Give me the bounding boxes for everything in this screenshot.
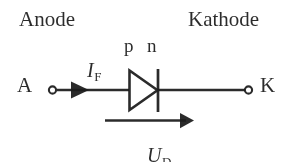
cathode-terminal-node xyxy=(245,86,252,93)
diode-voltage-label: UD xyxy=(131,129,171,162)
diode-figure: Anode Kathode A K p n IF UD xyxy=(0,0,293,162)
anode-heading-label: Anode xyxy=(19,9,75,30)
n-region-label: n xyxy=(147,36,157,55)
forward-current-symbol: I xyxy=(87,59,94,81)
p-region-label: p xyxy=(124,36,134,55)
forward-current-subscript: F xyxy=(94,69,101,84)
kathode-heading-label: Kathode xyxy=(188,9,259,30)
anode-terminal-label: A xyxy=(17,75,32,96)
kathode-terminal-label: K xyxy=(260,75,275,96)
diode-voltage-subscript: D xyxy=(162,154,171,162)
diode-triangle xyxy=(130,71,158,111)
anode-terminal-node xyxy=(49,86,56,93)
diode-voltage-symbol: U xyxy=(147,144,161,162)
forward-current-label: IF xyxy=(71,44,101,96)
diode-voltage-arrowhead xyxy=(180,113,194,128)
